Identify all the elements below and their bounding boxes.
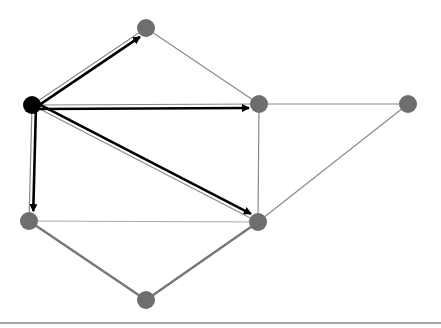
traversal-arrow-A-B <box>38 37 140 106</box>
source-node <box>23 96 41 114</box>
edge-C-F <box>258 104 259 222</box>
traversal-arrow-A-C <box>36 108 249 109</box>
nodes-layer <box>20 19 417 309</box>
edge-A-E <box>29 105 32 221</box>
edge-E-G <box>29 221 146 300</box>
edge-B-C <box>146 28 259 104</box>
edge-G-F <box>146 222 258 300</box>
graph-node-D <box>399 95 417 113</box>
graph-node-F <box>249 213 267 231</box>
traversal-arrow-A-E <box>33 109 36 211</box>
graph-svg <box>0 0 441 328</box>
graph-diagram <box>0 0 441 328</box>
edge-A-B <box>32 28 146 105</box>
graph-node-B <box>137 19 155 37</box>
edge-D-F <box>258 104 408 222</box>
arrows-layer <box>33 37 251 214</box>
edge-E-F <box>29 221 258 222</box>
graph-node-E <box>20 212 38 230</box>
graph-node-G <box>137 291 155 309</box>
graph-node-C <box>250 95 268 113</box>
traversal-arrow-A-F <box>37 103 251 214</box>
edges-layer <box>29 28 408 300</box>
edge-A-F <box>32 105 258 222</box>
edge-A-C <box>32 104 259 105</box>
